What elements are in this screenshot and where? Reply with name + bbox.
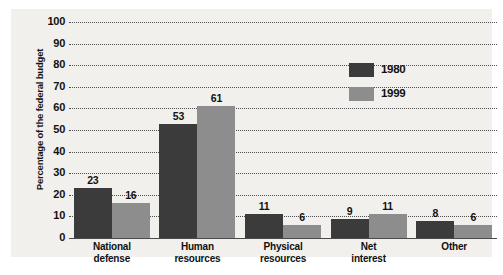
bar-1980[interactable]	[159, 124, 197, 238]
bar-1999[interactable]	[197, 106, 235, 238]
bar-group: 5361	[159, 22, 235, 238]
bar-chart-figure: Percentage of the federal budget 1009080…	[0, 0, 503, 275]
legend-swatch-1980	[349, 63, 374, 77]
y-axis-tick-label: 50	[31, 123, 65, 135]
y-axis-tick-label: 80	[31, 58, 65, 70]
bar-group: 2316	[74, 22, 150, 238]
y-axis-tick-label: 90	[31, 37, 65, 49]
category-label-line: Other	[399, 241, 503, 253]
y-axis-tick-label: 10	[31, 209, 65, 221]
bar-group: 116	[245, 22, 321, 238]
bar-1999[interactable]	[283, 225, 321, 238]
y-axis-tick-label: 30	[31, 166, 65, 178]
bar-group: 86	[416, 22, 492, 238]
legend-swatch-1999	[349, 87, 374, 101]
x-axis-category-labels: NationaldefenseHumanresourcesPhysicalres…	[69, 241, 497, 269]
chart-legend: 19801999	[349, 62, 445, 106]
bar-1999[interactable]	[454, 225, 492, 238]
bar-1999[interactable]	[112, 203, 150, 238]
legend-item-1980[interactable]: 1980	[349, 62, 445, 78]
legend-label: 1999	[381, 87, 405, 99]
y-axis-tick-label: 60	[31, 101, 65, 113]
bar-1999[interactable]	[369, 214, 407, 238]
y-axis-tick-label: 40	[31, 145, 65, 157]
legend-item-1999[interactable]: 1999	[349, 86, 445, 102]
bar-value-label: 11	[245, 200, 283, 212]
bar-value-label: 9	[331, 205, 369, 217]
bar-1980[interactable]	[416, 221, 454, 238]
bar-1980[interactable]	[331, 219, 369, 238]
bar-value-label: 8	[416, 207, 454, 219]
category-label: Other	[399, 241, 503, 253]
chart-panel: Percentage of the federal budget 1009080…	[11, 9, 492, 257]
bar-value-label: 61	[197, 92, 235, 104]
legend-label: 1980	[381, 63, 405, 75]
bar-group: 911	[331, 22, 407, 238]
bar-1980[interactable]	[74, 188, 112, 238]
bar-value-label: 6	[454, 211, 492, 223]
axis-baseline	[69, 238, 497, 239]
y-axis-tick-label: 20	[31, 188, 65, 200]
bar-value-label: 23	[74, 174, 112, 186]
bar-value-label: 11	[369, 200, 407, 212]
bars-layer: 2316536111691186	[69, 22, 497, 238]
y-axis-tick-labels: 1009080706050403020100	[25, 22, 65, 238]
y-axis-tick-label: 70	[31, 80, 65, 92]
category-label-line: interest	[314, 253, 424, 265]
y-axis-tick-label: 100	[31, 15, 65, 27]
bar-value-label: 16	[112, 189, 150, 201]
bar-value-label: 6	[283, 211, 321, 223]
bar-value-label: 53	[159, 110, 197, 122]
bar-1980[interactable]	[245, 214, 283, 238]
